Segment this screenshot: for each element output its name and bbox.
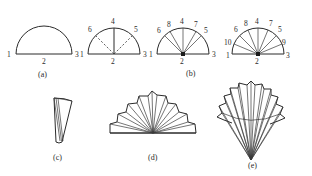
center-dot-b: [256, 52, 260, 56]
caption-b: (b): [186, 69, 196, 78]
caption-d: (d): [148, 153, 158, 162]
panel-b: 1 2 3 4 5 6 7 8 9 10 (b): [186, 17, 290, 78]
label-a2-5: 5: [134, 25, 138, 34]
label-b1-2: 2: [180, 57, 184, 66]
label-a-3: 3: [75, 50, 79, 59]
semicircle-arc-a: [16, 26, 72, 54]
label-a2-6: 6: [88, 25, 92, 34]
fan-outline-e: [219, 81, 285, 124]
radius-b-6: [240, 36, 258, 54]
label-b1-7: 7: [194, 20, 198, 29]
label-b-7: 7: [269, 19, 273, 28]
radius-a2-6-dashed: [96, 36, 114, 54]
label-b-5: 5: [278, 25, 282, 34]
label-b1-3: 3: [212, 50, 216, 59]
panel-d: (d): [110, 91, 196, 162]
label-a-1: 1: [7, 50, 11, 59]
caption-e: (e): [248, 161, 257, 170]
label-a2-1: 1: [80, 50, 84, 59]
panel-b1: 1 2 3 4 5 6 7 8: [149, 17, 216, 66]
panel-c: (c): [53, 98, 72, 162]
panel-a: 1 2 3 (a): [7, 26, 79, 79]
label-b1-6: 6: [157, 26, 161, 35]
fan-ribs-d: [110, 91, 195, 133]
label-b-2: 2: [255, 57, 259, 66]
label-b-10: 10: [224, 38, 232, 47]
label-b1-4: 4: [180, 17, 184, 26]
figure-root: 1 2 3 (a) 1 2 3 4 5 6: [0, 0, 312, 176]
label-b-9: 9: [282, 38, 286, 47]
label-b-8: 8: [244, 19, 248, 28]
label-a2-3: 3: [143, 50, 147, 59]
center-dot-b1: [181, 52, 185, 56]
label-b1-5: 5: [204, 26, 208, 35]
geometry-figure: 1 2 3 (a) 1 2 3 4 5 6: [0, 0, 312, 176]
radius-a2-5-dashed: [114, 36, 132, 54]
radius-b-5: [258, 36, 276, 54]
label-a2-2: 2: [111, 57, 115, 66]
label-b1-1: 1: [149, 50, 153, 59]
fan-ribs-e: [219, 81, 283, 160]
label-a-2: 2: [42, 57, 46, 66]
label-b-6: 6: [234, 25, 238, 34]
label-b-3: 3: [286, 51, 290, 60]
label-b-4: 4: [255, 17, 259, 26]
label-a2-4: 4: [111, 17, 115, 26]
label-b-1: 1: [226, 51, 230, 60]
caption-c: (c): [53, 153, 62, 162]
label-b1-8: 8: [167, 20, 171, 29]
panel-e: (e): [217, 81, 285, 170]
caption-a: (a): [38, 70, 47, 79]
panel-a2: 1 2 3 4 5 6: [80, 17, 147, 66]
